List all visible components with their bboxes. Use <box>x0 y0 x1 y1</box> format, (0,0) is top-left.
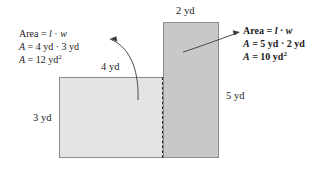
left-arrowhead-icon <box>110 36 117 41</box>
dimension-label-left: 3 yd <box>33 113 51 124</box>
dashed-divider-line <box>162 77 163 158</box>
right-rectangle <box>163 22 219 158</box>
left-note-line-3: A = 12 yd2 <box>19 53 79 66</box>
right-arrowhead-icon <box>233 30 240 35</box>
right-note-line-1: Area = l · w <box>243 24 305 37</box>
dimension-label-right: 5 yd <box>226 91 244 102</box>
dimension-label-top: 2 yd <box>176 6 194 17</box>
left-note-line-1: Area = l · w <box>19 27 79 40</box>
left-note-line-2: A = 4 yd · 3 yd <box>19 40 79 53</box>
dimension-label-inner-top: 4 yd <box>101 62 119 73</box>
right-note-line-3: A = 10 yd2 <box>243 50 305 63</box>
right-area-annotation: Area = l · w A = 5 yd · 2 yd A = 10 yd2 <box>243 24 305 64</box>
left-rectangle <box>59 77 164 158</box>
left-area-annotation: Area = l · w A = 4 yd · 3 yd A = 12 yd2 <box>19 27 79 67</box>
right-note-line-2: A = 5 yd · 2 yd <box>243 37 305 50</box>
figure-canvas: 2 yd 4 yd 3 yd 5 yd Area = l · w A = 4 y… <box>0 0 325 171</box>
